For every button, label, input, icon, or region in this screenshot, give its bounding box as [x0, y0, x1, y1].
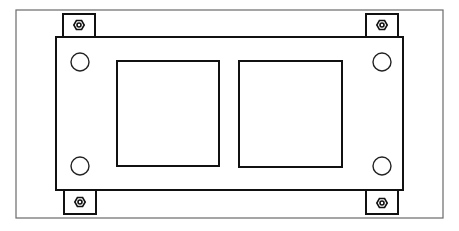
tab-top-left	[63, 14, 95, 37]
left-opening	[117, 61, 219, 166]
tab-top-right	[366, 14, 398, 37]
right-opening	[239, 61, 342, 167]
hole-bottom-left	[71, 157, 89, 175]
plate-drawing	[0, 0, 459, 231]
tab-bottom-left	[64, 190, 96, 214]
hole-top-left	[71, 53, 89, 71]
mounting-plate	[56, 37, 403, 190]
hole-bottom-right	[373, 157, 391, 175]
tab-bottom-right	[366, 190, 398, 214]
hole-top-right	[373, 53, 391, 71]
